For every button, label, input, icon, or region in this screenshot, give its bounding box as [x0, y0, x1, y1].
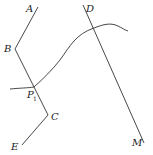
label-D: D: [85, 3, 94, 14]
label-P-subscript: 1: [33, 95, 37, 102]
label-M: M: [131, 137, 143, 148]
line-DM: [83, 5, 144, 143]
diagram-canvas: A B P 1 C E D M: [0, 0, 153, 155]
label-A: A: [25, 3, 33, 14]
label-E: E: [10, 141, 19, 152]
curve: [10, 24, 128, 89]
label-C: C: [51, 111, 59, 122]
label-B: B: [3, 43, 11, 54]
diagram: A B P 1 C E D M: [0, 0, 153, 155]
broken-line-ABCE: [15, 7, 48, 145]
